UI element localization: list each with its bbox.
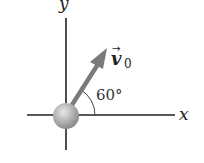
diagram-canvas: [0, 0, 204, 163]
angle-label: 60°: [96, 86, 123, 104]
y-axis-label: y: [59, 0, 69, 13]
velocity-arrow-head: [90, 48, 107, 69]
x-axis-label: x: [179, 104, 189, 124]
ball: [53, 103, 79, 129]
angle-arc: [81, 90, 95, 115]
